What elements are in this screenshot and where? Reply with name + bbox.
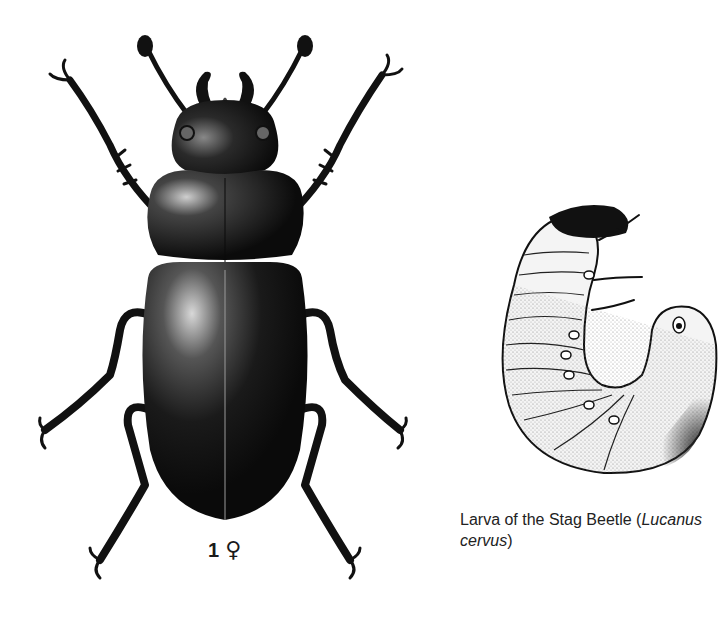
figure-1-label: 1♀ (208, 538, 241, 562)
larva-caption: Larva of the Stag Beetle (Lucanus cervus… (460, 509, 726, 551)
figure-number: 1 (208, 539, 219, 561)
larva-caption-text: Larva of the Stag Beetle ( (460, 511, 641, 528)
illustration-plate: 1♀ (0, 0, 726, 624)
larva-caption-close: ) (507, 532, 512, 549)
larva-illustration (484, 195, 726, 480)
stag-beetle-illustration (30, 30, 420, 585)
female-symbol-icon: ♀ (225, 537, 241, 562)
